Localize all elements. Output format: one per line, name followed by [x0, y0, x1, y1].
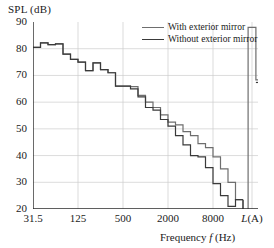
- chart-legend: With exterior mirror Without exterior mi…: [142, 21, 257, 45]
- legend-item-without-mirror: Without exterior mirror: [142, 33, 257, 45]
- chart-canvas: [33, 22, 258, 209]
- y-tick-label: 80: [3, 42, 27, 54]
- legend-label: With exterior mirror: [168, 21, 245, 33]
- x-tick-label: 2000: [143, 212, 193, 224]
- legend-swatch-line-icon: [142, 39, 164, 40]
- y-tick-label: 40: [3, 149, 27, 161]
- y-tick-label: 90: [3, 15, 27, 27]
- x-tick-label: 125: [53, 212, 103, 224]
- chart-figure: SPL (dB) 2030405060708090 31.51255002000…: [0, 0, 274, 248]
- x-tick-label: L(A): [227, 212, 274, 224]
- y-axis-title: SPL (dB): [8, 3, 51, 15]
- plot-area: [33, 22, 258, 209]
- y-tick-label: 50: [3, 122, 27, 134]
- x-axis-title-suffix: (Hz): [212, 231, 235, 243]
- x-axis-title: Frequency f (Hz): [160, 231, 235, 243]
- legend-item-with-mirror: With exterior mirror: [142, 21, 257, 33]
- y-tick-label: 30: [3, 175, 27, 187]
- y-tick-label: 70: [3, 68, 27, 80]
- x-axis-title-prefix: Frequency: [160, 231, 209, 243]
- legend-swatch-line-icon: [142, 27, 164, 28]
- x-tick-label: 31.5: [8, 212, 58, 224]
- legend-label: Without exterior mirror: [168, 33, 257, 45]
- x-tick-label: 500: [98, 212, 148, 224]
- y-tick-label: 60: [3, 95, 27, 107]
